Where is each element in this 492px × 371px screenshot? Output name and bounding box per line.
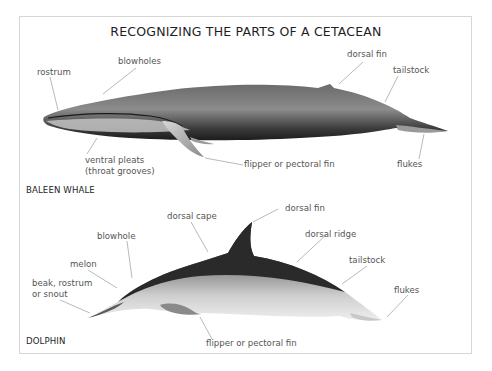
label-dolphin-tailstock: tailstock bbox=[349, 255, 385, 265]
label-dolphin-flukes: flukes bbox=[394, 285, 419, 295]
label-dolphin-dorsal-fin: dorsal fin bbox=[285, 203, 325, 213]
label-whale-throat-grooves: (throat grooves) bbox=[85, 166, 155, 176]
baleen-whale-illustration bbox=[43, 84, 448, 157]
label-whale-flipper: flipper or pectoral fin bbox=[244, 159, 335, 169]
section-label-dolphin: DOLPHIN bbox=[26, 336, 65, 346]
label-dolphin-dorsal-cape: dorsal cape bbox=[167, 211, 217, 221]
section-label-baleen-whale: BALEEN WHALE bbox=[26, 185, 95, 195]
label-whale-rostrum: rostrum bbox=[37, 67, 71, 77]
label-dolphin-beak: beak, rostrum bbox=[32, 278, 92, 288]
label-dolphin-flipper: flipper or pectoral fin bbox=[206, 338, 297, 348]
label-dolphin-snout: or snout bbox=[32, 289, 68, 299]
label-dolphin-dorsal-ridge: dorsal ridge bbox=[305, 229, 356, 239]
label-whale-flukes: flukes bbox=[397, 159, 422, 169]
label-whale-dorsal-fin: dorsal fin bbox=[347, 49, 387, 59]
label-dolphin-blowhole: blowhole bbox=[97, 231, 136, 241]
label-dolphin-melon: melon bbox=[70, 259, 97, 269]
label-whale-ventral-pleats: ventral pleats bbox=[85, 155, 144, 165]
label-whale-tailstock: tailstock bbox=[393, 65, 429, 75]
label-whale-blowholes: blowholes bbox=[118, 56, 161, 66]
